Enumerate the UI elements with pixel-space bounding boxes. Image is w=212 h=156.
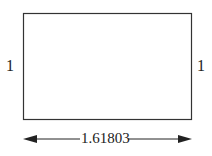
- arrowhead-right-icon: [178, 135, 192, 143]
- rectangle: [24, 14, 192, 120]
- arrowhead-left-icon: [23, 135, 37, 143]
- right-side-label: 1: [197, 58, 205, 74]
- width-label: 1.61803: [81, 131, 130, 146]
- left-side-label: 1: [6, 58, 14, 74]
